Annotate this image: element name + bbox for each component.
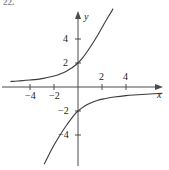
y-axis-arrowhead [75,11,81,19]
y-tick-label-neg-4: −4 [58,130,69,140]
y-axis [75,11,81,166]
curve-upper-branch [11,9,113,81]
coordinate-plot [0,0,169,170]
graph-figure: 22. −4 −2 [0,0,169,170]
y-tick-label-neg-2: −2 [58,106,69,116]
y-axis-name-label: y [84,12,88,22]
x-tick-label-pos-2: 2 [99,72,104,82]
y-tick-label-pos-4: 4 [63,34,68,44]
x-tick-label-neg-4: −4 [25,91,36,101]
x-tick-label-neg-2: −2 [49,91,60,101]
x-axis-name-label: x [157,90,161,100]
y-tick-label-pos-2: 2 [63,58,68,68]
x-tick-label-pos-4: 4 [123,72,128,82]
